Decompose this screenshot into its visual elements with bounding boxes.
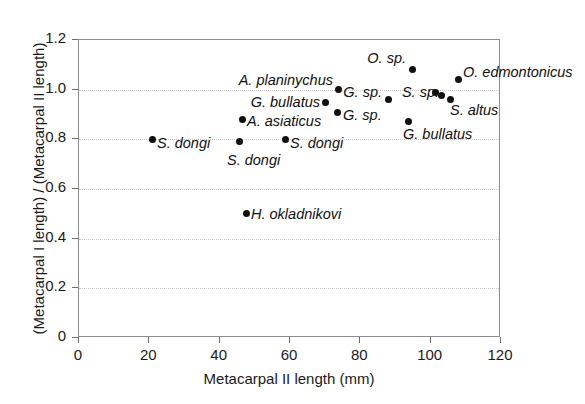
scatter-plot-figure: 00.20.40.60.81.01.2 020406080100120 S. d…: [0, 0, 585, 404]
data-point: [409, 66, 416, 73]
point-label: H. okladnikovi: [251, 207, 341, 222]
gridline-y-0.4: [79, 239, 499, 240]
data-point: [282, 136, 289, 143]
x-tick-mark: [219, 337, 220, 343]
gridline-y-0.6: [79, 189, 499, 190]
x-tick-label: 20: [140, 346, 157, 363]
point-label: G. bullatus: [251, 95, 320, 110]
x-tick-mark: [78, 337, 79, 343]
data-point: [385, 96, 392, 103]
point-label: G. bullatus: [403, 127, 472, 142]
data-point: [149, 136, 156, 143]
x-tick-mark: [430, 337, 431, 343]
point-label: S. sp.: [402, 85, 439, 100]
y-axis-title: (Metacarpal I length) / (Metacarpal II l…: [30, 39, 47, 339]
point-label: S. dongi: [227, 153, 280, 168]
x-axis-title: Metacarpal II length (mm): [78, 370, 500, 387]
x-tick-mark: [148, 337, 149, 343]
x-tick-label: 0: [74, 346, 82, 363]
point-label: G. sp.: [343, 108, 382, 123]
x-tick-label: 60: [281, 346, 298, 363]
x-tick-mark: [500, 337, 501, 343]
x-tick-mark: [289, 337, 290, 343]
point-label: O. sp.: [367, 51, 406, 66]
point-label: S. altus: [450, 103, 498, 118]
data-point: [438, 92, 445, 99]
data-point: [405, 118, 412, 125]
point-label: S. dongi: [290, 136, 343, 151]
point-label: A. planinychus: [239, 73, 333, 88]
x-tick-mark: [359, 337, 360, 343]
point-label: S. dongi: [157, 136, 210, 151]
x-tick-label: 120: [487, 346, 512, 363]
point-label: O. edmontonicus: [463, 65, 573, 80]
x-tick-label: 100: [417, 346, 442, 363]
point-label: A. asiaticus: [247, 114, 321, 129]
gridline-y-0.2: [79, 288, 499, 289]
data-point: [455, 76, 462, 83]
data-point: [236, 138, 243, 145]
x-tick-label: 40: [210, 346, 227, 363]
data-point: [334, 109, 341, 116]
data-point: [243, 210, 250, 217]
data-point: [335, 86, 342, 93]
point-label: G. sp.: [343, 85, 382, 100]
data-point: [239, 116, 246, 123]
x-tick-label: 80: [351, 346, 368, 363]
data-point: [322, 99, 329, 106]
